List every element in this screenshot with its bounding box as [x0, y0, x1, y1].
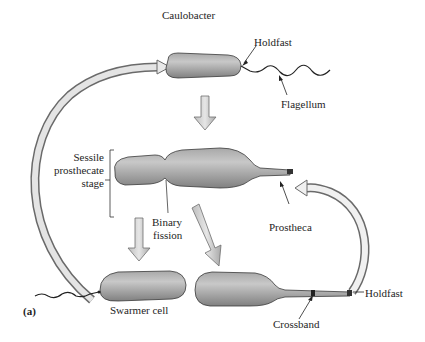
label-prostheca: Prostheca	[269, 221, 312, 233]
swarmer-cell	[35, 271, 186, 301]
label-holdfast-bottom: Holdfast	[365, 287, 403, 299]
caulobacter-life-cycle-diagram: Caulobacter Holdfast Flagellum Sessile p…	[0, 0, 425, 342]
diagram-title: Caulobacter	[162, 9, 215, 21]
sessile-bracket	[105, 150, 114, 217]
label-binary-line2: fission	[153, 229, 182, 241]
label-binary-line1: Binary	[152, 216, 182, 228]
label-holdfast-top: Holdfast	[254, 36, 292, 48]
stalked-cell	[195, 272, 364, 319]
dividing-cell	[115, 148, 293, 213]
panel-label: (a)	[23, 305, 36, 317]
label-swarmer-cell: Swarmer cell	[110, 304, 168, 316]
diagonal-arrow-icon	[192, 204, 221, 266]
label-sessile-line2: prosthecate	[42, 164, 104, 176]
down-arrow-2-icon	[128, 218, 150, 261]
label-flagellum: Flagellum	[281, 98, 326, 110]
top-swarmer-cell	[166, 46, 330, 95]
label-sessile-line1: Sessile	[42, 151, 104, 163]
down-arrow-1-icon	[194, 96, 216, 130]
cycle-arrow-right-icon	[295, 180, 365, 292]
label-crossband: Crossband	[273, 318, 319, 330]
label-sessile-line3: stage	[42, 177, 104, 189]
